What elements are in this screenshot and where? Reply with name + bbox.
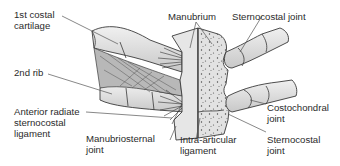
label-line: cartilage [14, 20, 55, 31]
right-first-cartilage [224, 28, 288, 68]
manubrium [172, 28, 230, 140]
label-first-costal-cartilage: 1st costal cartilage [14, 9, 55, 31]
label-line: sternocostal [14, 117, 80, 128]
label-sternocostal-joint-top: Sternocostal joint [232, 11, 306, 22]
label-line: Costochondral [267, 102, 329, 113]
label-manubrium: Manubrium [168, 11, 216, 22]
label-line: ligament [14, 128, 80, 139]
label-line: ligament [180, 145, 237, 156]
label-line: Intra-articular [180, 134, 237, 145]
label-line: Sternocostal joint [232, 11, 306, 22]
label-anterior-radiate-sternocostal-ligament: Anterior radiate sternocostal ligament [14, 106, 80, 139]
label-line: 2nd rib [14, 67, 43, 78]
label-line: 1st costal [14, 9, 55, 20]
label-intra-articular-ligament: Intra-articular ligament [180, 134, 237, 156]
label-costochondral-joint: Costochondral joint [267, 102, 329, 124]
label-line: joint [267, 113, 329, 124]
label-sternocostal-joint-bottom: Sternocostal joint [267, 134, 320, 156]
label-line: Manubrium [168, 11, 216, 22]
label-second-rib: 2nd rib [14, 67, 43, 78]
label-manubriosternal-joint: Manubriosternal joint [86, 133, 155, 155]
label-line: joint [267, 145, 320, 156]
label-line: Manubriosternal [86, 133, 155, 144]
label-line: Anterior radiate [14, 106, 80, 117]
label-line: Sternocostal [267, 134, 320, 145]
sternocostal-joint-diagram: 1st costal cartilage 2nd rib Anterior ra… [0, 0, 340, 166]
label-line: joint [86, 144, 155, 155]
